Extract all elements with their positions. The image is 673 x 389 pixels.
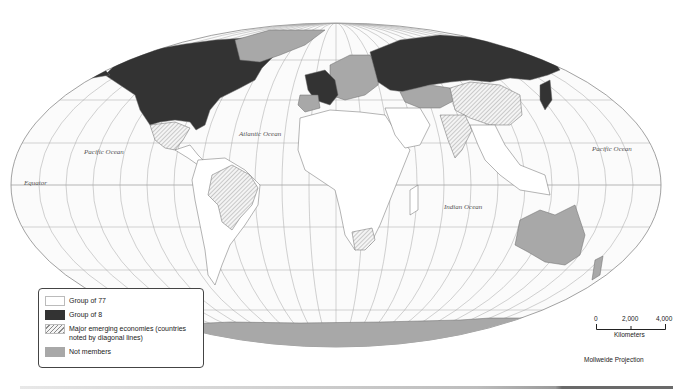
indian-ocean-label: Indian Ocean bbox=[444, 203, 482, 211]
scale-tick-4000: 4,000 bbox=[656, 315, 672, 322]
projection-label: Mollweide Projection bbox=[584, 356, 644, 363]
pacific-ocean-west-label: Pacific Ocean bbox=[84, 148, 124, 156]
legend-label: Major emerging economies (countries note… bbox=[69, 324, 199, 342]
legend-label: Group of 8 bbox=[69, 310, 199, 319]
legend-item-emerging-economies: Major emerging economies (countries note… bbox=[45, 324, 199, 342]
legend-item-not-members: Not members bbox=[45, 347, 199, 357]
swatch-dark bbox=[45, 310, 65, 320]
scale-tick-2000: 2,000 bbox=[622, 315, 638, 322]
map-legend: Group of 77 Group of 8 Major emerging ec… bbox=[38, 288, 204, 368]
scale-line bbox=[596, 324, 666, 330]
scale-unit: Kilometers bbox=[614, 331, 645, 338]
madagascar bbox=[410, 185, 418, 215]
pacific-ocean-east-label: Pacific Ocean bbox=[592, 145, 632, 153]
scale-tick-0: 0 bbox=[594, 315, 598, 322]
legend-item-group-of-77: Group of 77 bbox=[45, 296, 199, 306]
atlantic-ocean-label: Atlantic Ocean bbox=[239, 130, 281, 138]
swatch-hatched bbox=[45, 324, 65, 334]
legend-label: Group of 77 bbox=[69, 296, 199, 305]
legend-label: Not members bbox=[69, 347, 199, 356]
swatch-gray bbox=[45, 347, 65, 357]
legend-item-group-of-8: Group of 8 bbox=[45, 310, 199, 320]
swatch-white bbox=[45, 296, 65, 306]
equator-label: Equator bbox=[24, 179, 47, 187]
